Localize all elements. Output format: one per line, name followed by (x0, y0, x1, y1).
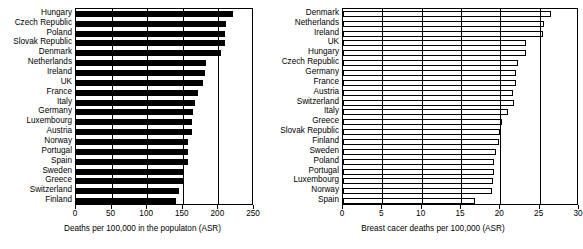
category-label: Hungary (41, 8, 72, 18)
category-label: Spain (318, 195, 339, 205)
category-label: Poland (314, 156, 340, 166)
bar (76, 11, 233, 17)
bar (76, 159, 188, 165)
bar (343, 70, 516, 76)
category-label: Czech Republic (282, 57, 339, 67)
bar (343, 50, 526, 56)
tick-label: 0 (340, 209, 345, 219)
chart-panel-all-cause-mortality: HungaryCzech RepublicPolandSlovak Republ… (0, 0, 285, 249)
category-label: Sweden (309, 146, 339, 156)
category-label: Denmark (306, 8, 339, 18)
bar (343, 198, 475, 204)
bar (76, 178, 183, 184)
tick-label: 50 (106, 209, 115, 219)
gridline (500, 9, 501, 204)
category-label: Portugal (309, 166, 340, 176)
bar (76, 70, 205, 76)
category-label: Denmark (39, 47, 72, 57)
bar (343, 31, 543, 37)
tick-label: 10 (416, 209, 425, 219)
bar (76, 80, 203, 86)
bar (76, 119, 192, 125)
category-label: Portugal (42, 146, 73, 156)
tick-label: 25 (534, 209, 543, 219)
category-label: Czech Republic (15, 18, 72, 28)
bar (76, 21, 226, 27)
category-label: Norway (44, 136, 72, 146)
bar (343, 100, 514, 106)
category-label: Slovak Republic (280, 126, 339, 136)
category-label: Germany (305, 67, 339, 77)
category-label: Slovak Republic (13, 37, 72, 47)
bar (343, 149, 496, 155)
category-label: Poland (47, 28, 73, 38)
category-label: Spain (51, 156, 72, 166)
category-label: Austria (314, 87, 339, 97)
category-label: Austria (47, 126, 72, 136)
bar (76, 100, 195, 106)
category-label: Switzerland (30, 185, 72, 195)
category-label: Netherlands (295, 18, 339, 28)
bar (76, 139, 188, 145)
category-label: Greece (312, 116, 339, 126)
bar (343, 109, 508, 115)
category-label: Finland (312, 136, 339, 146)
gridline (540, 9, 541, 204)
category-label: Sweden (42, 166, 72, 176)
bar (76, 50, 221, 56)
category-label: Netherlands (28, 57, 72, 67)
bar (76, 60, 206, 66)
bar (76, 31, 225, 37)
gridline (183, 9, 184, 204)
plot-area-right (342, 8, 578, 205)
bar (76, 40, 225, 46)
bar (343, 60, 518, 66)
category-label: France (314, 77, 339, 87)
bar (343, 178, 493, 184)
gridline (112, 9, 113, 204)
category-label: France (47, 87, 72, 97)
tick-label: 0 (73, 209, 78, 219)
gridline (422, 9, 423, 204)
category-label: Luxembourg (26, 116, 72, 126)
category-label: Ireland (314, 28, 339, 38)
gridline (147, 9, 148, 204)
bar (343, 80, 516, 86)
tick-label: 150 (175, 209, 189, 219)
bar (343, 159, 494, 165)
chart-panel-breast-cancer-mortality: DenmarkNetherlandsIrelandUKHungaryCzech … (285, 0, 581, 249)
gridline (461, 9, 462, 204)
category-label: Luxembourg (293, 175, 339, 185)
category-label: UK (61, 77, 72, 87)
tick-label: 15 (455, 209, 464, 219)
category-label: Greece (45, 175, 72, 185)
bar (76, 198, 176, 204)
tick-label: 5 (379, 209, 384, 219)
bar (76, 169, 184, 175)
category-label: Ireland (47, 67, 72, 77)
bar (76, 109, 193, 115)
category-label: Norway (311, 185, 339, 195)
tick-label: 200 (211, 209, 225, 219)
category-label: Finland (45, 195, 72, 205)
gridline (218, 9, 219, 204)
bar (343, 21, 544, 27)
x-axis-title-right: Breast cacer deaths per 100,000 (ASR) (285, 224, 581, 234)
bar (343, 169, 494, 175)
bar (343, 188, 492, 194)
x-axis-title-left: Deaths per 100,000 in the populaton (ASR… (0, 224, 285, 234)
gridline (382, 9, 383, 204)
category-label: Germany (38, 106, 72, 116)
plot-area-left (75, 8, 253, 205)
category-label: Hungary (308, 47, 339, 57)
bar (343, 90, 513, 96)
tick-label: 250 (246, 209, 260, 219)
bar (343, 11, 551, 17)
category-axis-labels-left: HungaryCzech RepublicPolandSlovak Republ… (0, 8, 72, 205)
bar (343, 40, 526, 46)
category-axis-labels-right: DenmarkNetherlandsIrelandUKHungaryCzech … (285, 8, 339, 205)
bar (76, 129, 192, 135)
bar (76, 149, 188, 155)
bar (76, 90, 198, 96)
